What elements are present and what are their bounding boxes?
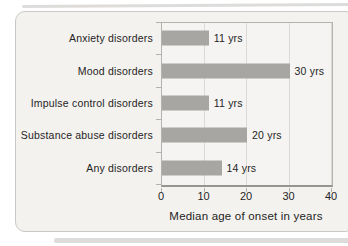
bar-band: 20 yrs <box>162 119 332 151</box>
bar-band: 30 yrs <box>162 54 332 86</box>
chart-row: Impulse control disorders 11 yrs <box>16 87 331 119</box>
bar-rows: Anxiety disorders 11 yrs Mood disorders … <box>16 22 331 184</box>
value-label: 20 yrs <box>252 129 282 141</box>
chart-row: Anxiety disorders 11 yrs <box>16 22 331 54</box>
chart-row: Any disorders 14 yrs <box>16 152 331 184</box>
chart-card: Anxiety disorders 11 yrs Mood disorders … <box>15 11 348 232</box>
bar <box>162 95 209 110</box>
category-label: Any disorders <box>86 162 153 174</box>
value-label: 14 yrs <box>227 162 257 174</box>
bar <box>162 31 209 46</box>
category-label: Mood disorders <box>78 65 153 77</box>
bar <box>162 128 247 143</box>
page: Anxiety disorders 11 yrs Mood disorders … <box>0 0 348 246</box>
chart-row: Substance abuse disorders 20 yrs <box>16 119 331 151</box>
x-axis-label: Median age of onset in years <box>161 210 331 222</box>
category-label: Anxiety disorders <box>69 32 153 44</box>
y-tick <box>156 184 161 185</box>
x-tick-label: 0 <box>158 190 164 202</box>
x-axis-ticks: 010203040 <box>161 190 331 204</box>
value-label: 30 yrs <box>295 65 325 77</box>
bar <box>162 63 290 78</box>
bar <box>162 160 222 175</box>
x-tick-label: 10 <box>197 190 209 202</box>
x-tick-label: 20 <box>240 190 252 202</box>
x-tick-label: 40 <box>325 190 337 202</box>
x-tick-label: 30 <box>282 190 294 202</box>
bar-band: 14 yrs <box>162 152 332 184</box>
chart-row: Mood disorders 30 yrs <box>16 54 331 86</box>
category-label: Impulse control disorders <box>31 97 153 109</box>
value-label: 11 yrs <box>214 97 243 109</box>
bar-band: 11 yrs <box>162 87 332 119</box>
scan-artifact-bottom <box>54 238 348 243</box>
category-label: Substance abuse disorders <box>21 129 153 141</box>
bar-band: 11 yrs <box>162 22 332 54</box>
scan-artifact-top <box>22 3 348 8</box>
value-label: 11 yrs <box>214 32 243 44</box>
